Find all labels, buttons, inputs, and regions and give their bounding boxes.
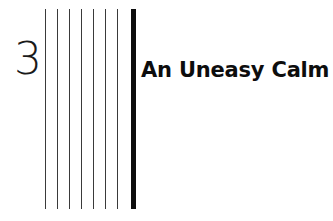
chapter-title: An Uneasy Calm bbox=[141, 58, 331, 82]
vertical-rule-thin bbox=[81, 9, 82, 209]
vertical-rule-thin bbox=[69, 9, 70, 209]
chapter-title-page: 3 An Uneasy Calm bbox=[0, 0, 333, 221]
vertical-rule-thin bbox=[93, 9, 94, 209]
vertical-rule-thin bbox=[57, 9, 58, 209]
vertical-rule-thin bbox=[105, 9, 106, 209]
vertical-rule-thick bbox=[131, 9, 136, 209]
vertical-rule-thin bbox=[45, 9, 46, 209]
vertical-rule-group bbox=[0, 0, 333, 221]
vertical-rule-thin bbox=[117, 9, 118, 209]
